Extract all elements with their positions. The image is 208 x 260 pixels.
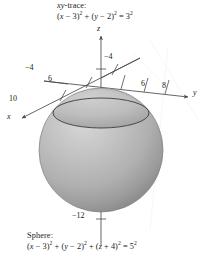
tick-label-x-10: 10 xyxy=(9,94,17,103)
xy-trace-caption: xy-trace: (x − 3)2 + (y − 2)2 = 32 xyxy=(57,1,133,23)
axis-label-x: x xyxy=(7,112,11,121)
sphere-caption: Sphere: (x − 3)2 + (y − 2)2 + (z + 4)2 =… xyxy=(27,231,137,253)
sphere-trace-figure xyxy=(0,0,208,260)
xy-trace-equation: (x − 3)2 + (y − 2)2 = 32 xyxy=(57,12,133,23)
axis-overlay xyxy=(44,58,140,84)
tick-label-z-neg4: −4 xyxy=(104,52,113,61)
sphere-equation: (x − 3)2 + (y − 2)2 + (z + 4)2 = 52 xyxy=(27,242,137,253)
tick-label-y-8: 8 xyxy=(162,81,166,90)
sphere-cap xyxy=(53,90,149,128)
tick-label-x-6: 6 xyxy=(48,74,52,83)
tick-label-y-neg4: −4 xyxy=(25,63,34,72)
axis-label-z: z xyxy=(97,24,100,33)
axis-label-y: y xyxy=(193,88,197,97)
tick-label-y-6: 6 xyxy=(141,79,145,88)
tick-label-z-neg12: −12 xyxy=(72,211,85,220)
xy-trace-caption-title: xy-trace: xyxy=(57,1,133,12)
